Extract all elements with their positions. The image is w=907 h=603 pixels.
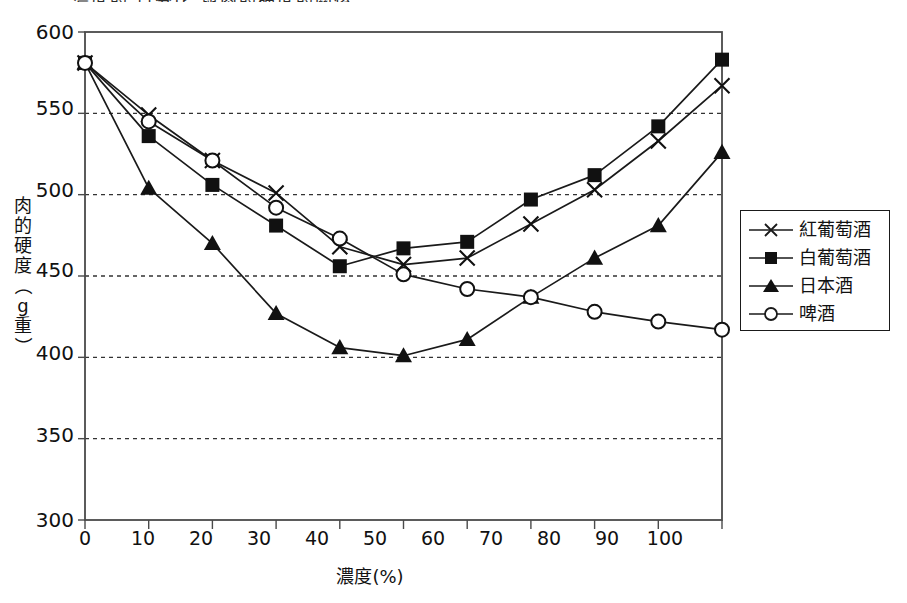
legend: 紅葡萄酒 白葡萄酒 日本酒 啤酒 (740, 210, 890, 331)
series-filled-triangle (77, 54, 731, 362)
filled-triangle-marker-icon (748, 276, 794, 296)
legend-item-white-wine[interactable]: 白葡萄酒 (741, 244, 889, 272)
chart-page: 濃度的 百分比 與肉的硬度的關係 肉 的 硬 度 （ g 重 ） 600 550… (0, 0, 907, 603)
legend-item-sake[interactable]: 日本酒 (741, 272, 889, 300)
legend-label: 白葡萄酒 (799, 248, 871, 268)
legend-label: 啤酒 (799, 304, 835, 324)
legend-label: 紅葡萄酒 (799, 220, 871, 240)
legend-item-red-wine[interactable]: 紅葡萄酒 (741, 216, 889, 244)
filled-square-marker-icon (748, 248, 794, 268)
legend-label: 日本酒 (799, 276, 853, 296)
series-open-circle (78, 56, 729, 337)
data-series-layer (77, 53, 731, 363)
open-circle-marker-icon (748, 304, 794, 324)
x-marker-icon (748, 220, 794, 240)
legend-item-beer[interactable]: 啤酒 (741, 300, 889, 328)
